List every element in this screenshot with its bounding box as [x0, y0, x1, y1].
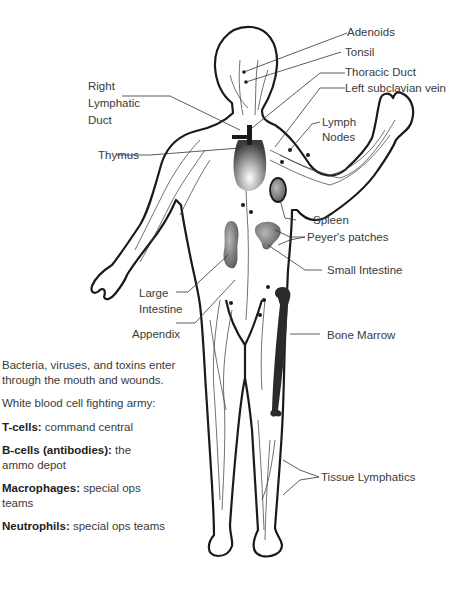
legend-intro: Bacteria, viruses, and toxins enter thro…: [2, 358, 207, 387]
legend-item-neutrophils: Neutrophils: special ops teams: [2, 519, 207, 534]
label-right-lymphatic-duct-line1: Right: [88, 79, 115, 93]
label-lymph-nodes-line2: Nodes: [322, 130, 355, 144]
large-intestine-organ: [223, 221, 238, 268]
label-large-intestine-line2: Intestine: [139, 302, 182, 316]
label-appendix: Appendix: [132, 327, 180, 341]
lymphatic-system-diagram: Adenoids Tonsil Thoracic Duct Left subcl…: [0, 0, 469, 591]
label-left-subclavian-vein: Left subclavian vein: [345, 81, 446, 95]
legend-term: Neutrophils:: [2, 520, 70, 532]
legend-army-heading: White blood cell fighting army:: [2, 396, 207, 411]
bone-marrow-organ: [270, 287, 290, 416]
legend-desc: command central: [45, 421, 133, 433]
legend-item-macrophages: Macrophages: special ops teams: [2, 481, 142, 510]
label-thymus: Thymus: [98, 148, 139, 162]
legend-item-b-cells: B-cells (antibodies): the ammo depot: [2, 443, 142, 472]
label-bone-marrow: Bone Marrow: [327, 328, 395, 342]
legend-item-t-cells: T-cells: command central: [2, 420, 207, 435]
label-spleen: Spleen: [313, 213, 349, 227]
thymus-organ: [234, 140, 267, 191]
label-lymph-nodes-line1: Lymph: [322, 115, 356, 129]
spleen-organ: [270, 178, 286, 202]
legend: Bacteria, viruses, and toxins enter thro…: [2, 358, 207, 543]
label-tissue-lymphatics: Tissue Lymphatics: [321, 470, 415, 484]
legend-term: B-cells (antibodies):: [2, 444, 112, 456]
label-large-intestine-line1: Large: [139, 286, 168, 300]
legend-term: T-cells:: [2, 421, 42, 433]
label-peyers-patches: Peyer's patches: [307, 230, 388, 244]
legend-term: Macrophages:: [2, 482, 80, 494]
label-adenoids: Adenoids: [347, 25, 395, 39]
label-right-lymphatic-duct-line3: Duct: [88, 113, 112, 127]
label-tonsil: Tonsil: [345, 45, 374, 59]
legend-desc: special ops teams: [73, 520, 165, 532]
label-right-lymphatic-duct-line2: Lymphatic: [88, 96, 140, 110]
label-thoracic-duct: Thoracic Duct: [345, 65, 416, 79]
label-small-intestine: Small Intestine: [327, 263, 402, 277]
